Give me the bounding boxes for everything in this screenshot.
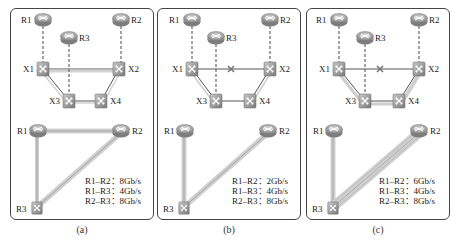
logical-label-r1: R1 (164, 126, 175, 136)
label-r2: R2 (280, 15, 291, 25)
rate-r1-r2: R1–R2：2Gb/s (232, 176, 289, 186)
router-r2-icon (411, 14, 428, 27)
label-x4: X4 (259, 96, 270, 106)
logical-label-r2: R2 (132, 126, 143, 136)
logical-r2-icon (411, 125, 428, 138)
logical-label-r1: R1 (313, 126, 324, 136)
label-x4: X4 (408, 96, 419, 106)
rate-r1-r3: R1–R3：4Gb/s (379, 186, 436, 196)
logical-r3-icon (32, 202, 43, 214)
rate-r2-r3: R2–R3：8Gb/s (85, 196, 142, 206)
label-x3: X3 (49, 96, 60, 106)
router-r1-icon (184, 14, 201, 27)
router-r1-icon (331, 14, 348, 27)
label-x3: X3 (196, 96, 207, 106)
label-x4: X4 (110, 96, 121, 106)
router-r3-icon (208, 32, 225, 45)
logical-label-r2: R2 (279, 126, 290, 136)
logical-r2-icon (113, 125, 130, 138)
panel-a-diagram: R1 R2 R3 X1 X2 X3 X4 R1 R2 R3 R1–R2：8Gb/… (11, 9, 155, 221)
label-r1: R1 (21, 15, 32, 25)
logical-r3-icon (328, 202, 339, 214)
logical-label-r1: R1 (17, 126, 28, 136)
rate-r2-r3: R2–R3：8Gb/s (232, 196, 289, 206)
switch-x1-icon (37, 62, 49, 76)
switch-x3-icon (63, 94, 75, 108)
caption-c: (c) (306, 224, 450, 235)
router-r3-icon (61, 32, 78, 45)
label-r1: R1 (169, 15, 180, 25)
switch-x1-icon (186, 62, 198, 76)
panel-a: R1 R2 R3 X1 X2 X3 X4 R1 R2 R3 R1–R2：8Gb/… (10, 8, 154, 220)
panel-c: R1 R2 R3 X1 X2 X3 X4 R1 R2 R3 R1–R2：6Gb/… (306, 8, 450, 220)
logical-label-r2: R2 (430, 126, 441, 136)
logical-r3-icon (179, 202, 190, 214)
label-r3: R3 (79, 33, 90, 43)
label-x1: X1 (23, 64, 34, 74)
logical-label-r3: R3 (312, 204, 323, 214)
switch-x1-icon (333, 62, 345, 76)
rate-r1-r2: R1–R2：6Gb/s (379, 176, 436, 186)
switch-x3-icon (359, 94, 371, 108)
switch-x2-icon (113, 62, 125, 76)
logical-r2-icon (260, 125, 277, 138)
router-r2-icon (262, 14, 279, 27)
switch-x4-icon (95, 94, 107, 108)
logical-label-r3: R3 (16, 204, 27, 214)
router-r1-icon (35, 14, 52, 27)
switch-x4-icon (244, 94, 256, 108)
router-r2-icon (113, 14, 130, 27)
label-x2: X2 (128, 64, 139, 74)
switch-x3-icon (210, 94, 222, 108)
label-x2: X2 (279, 64, 290, 74)
panel-b-diagram: R1 R2 R3 X1 X2 X3 X4 R1 R2 R3 R1–R2：2Gb/… (158, 9, 302, 221)
label-r2: R2 (429, 15, 440, 25)
caption-b: (b) (157, 224, 301, 235)
label-x1: X1 (172, 64, 183, 74)
logical-r1-icon (30, 125, 47, 138)
caption-a: (a) (10, 224, 154, 235)
panel-c-diagram: R1 R2 R3 X1 X2 X3 X4 R1 R2 R3 R1–R2：6Gb/… (307, 9, 451, 221)
label-x2: X2 (428, 64, 439, 74)
label-r3: R3 (226, 33, 237, 43)
rate-r2-r3: R2–R3：8Gb/s (379, 196, 436, 206)
router-r3-icon (357, 32, 374, 45)
label-x1: X1 (319, 64, 330, 74)
rate-r1-r3: R1–R3：4Gb/s (232, 186, 289, 196)
logical-r1-icon (326, 125, 343, 138)
rate-r1-r3: R1–R3：4Gb/s (85, 186, 142, 196)
label-r3: R3 (375, 33, 386, 43)
logical-r1-icon (177, 125, 194, 138)
switch-x2-icon (413, 62, 425, 76)
switch-x4-icon (393, 94, 405, 108)
label-r2: R2 (131, 15, 142, 25)
switch-x2-icon (264, 62, 276, 76)
logical-label-r3: R3 (163, 204, 174, 214)
rate-r1-r2: R1–R2：8Gb/s (85, 176, 142, 186)
label-x3: X3 (345, 96, 356, 106)
panel-b: R1 R2 R3 X1 X2 X3 X4 R1 R2 R3 R1–R2：2Gb/… (157, 8, 301, 220)
label-r1: R1 (316, 15, 327, 25)
